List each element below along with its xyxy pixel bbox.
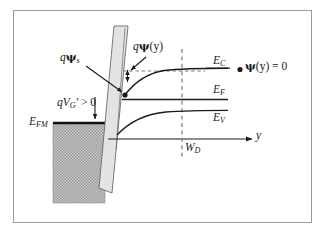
bulk-point-marker	[237, 67, 242, 72]
y-axis-text: y	[256, 129, 261, 141]
band-bending-label: qψ(y)	[133, 41, 163, 53]
band-diagram-canvas	[0, 0, 325, 235]
bulk-condition-text: ψ(y) = 0	[245, 60, 287, 72]
metal-region	[53, 123, 105, 203]
conduction-band-text: EC	[213, 54, 225, 66]
valence-band-label: EV	[213, 112, 225, 125]
valence-band-text: EV	[213, 111, 225, 123]
depletion-width-label: WD	[185, 142, 200, 155]
band-bending-text: qψ(y)	[133, 40, 163, 52]
conduction-band-label: EC	[213, 55, 225, 68]
surface-potential-label: qψs	[60, 52, 80, 65]
y-axis-label: y	[256, 130, 261, 142]
fermi-level-label: EF	[213, 84, 225, 97]
fermi-level-text: EF	[213, 83, 225, 95]
surface-point-marker	[122, 92, 127, 97]
band-bending-leader	[131, 57, 146, 70]
gate-bias-text: qVG′ > 0	[57, 96, 96, 108]
depletion-width-text: WD	[185, 141, 200, 153]
band-diagram-figure: qVG′ > 0 EFM qψs qψ(y) EC ψ(y) = 0 EF EV…	[0, 0, 325, 235]
metal-fermi-text: EFM	[29, 115, 48, 127]
metal-fermi-label: EFM	[29, 116, 48, 129]
bulk-condition-label: ψ(y) = 0	[245, 61, 287, 73]
gate-bias-label: qVG′ > 0	[57, 97, 96, 110]
surface-potential-text: qψs	[60, 51, 80, 63]
valence-band-curve	[117, 110, 228, 135]
